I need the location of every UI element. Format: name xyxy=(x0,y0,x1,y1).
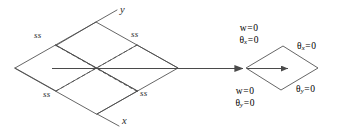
bc-value: 0 xyxy=(253,23,258,33)
bc-symbol: w xyxy=(236,86,243,96)
bc-top-left-block: w=0 θx=0 xyxy=(218,23,280,47)
bc-value: 0 xyxy=(250,98,255,108)
bc-value: 0 xyxy=(311,41,316,51)
plate-grid-lower-left xyxy=(15,68,56,91)
bc-value: 0 xyxy=(310,84,315,94)
bc-bottom-right-line-1: θy=0 xyxy=(296,84,315,96)
axis-y-label: y xyxy=(120,5,125,16)
bc-symbol: w xyxy=(240,23,247,33)
plate-grid-upper-right xyxy=(137,45,178,68)
axis-y-line xyxy=(96,10,117,22)
plate-grid-lower-right xyxy=(97,91,138,114)
plate-edge-label-ss-top-left: ss xyxy=(34,31,41,40)
axis-x-line xyxy=(97,114,119,126)
bc-value: 0 xyxy=(249,86,254,96)
bc-bottom-left-block: w=0 θy=0 xyxy=(214,86,276,110)
bc-value: 0 xyxy=(254,35,259,45)
plate-edge-label-ss-bottom-left: ss xyxy=(43,90,50,99)
plate-edge-label-ss-bottom-right: ss xyxy=(140,89,147,98)
bc-bottom-left-line-1: w=0 xyxy=(214,86,276,98)
bc-top-right-line-1: θx=0 xyxy=(297,41,316,53)
plate-edge-label-ss-top-right: ss xyxy=(131,30,138,39)
bc-bottom-left-line-2: θy=0 xyxy=(214,98,276,110)
bc-top-right-block: θx=0 xyxy=(297,41,316,53)
plate-grid-upper-left xyxy=(56,22,96,46)
figure-vector-canvas xyxy=(0,0,344,136)
bc-bottom-right-block: θy=0 xyxy=(296,84,315,96)
axis-x-label: x xyxy=(122,116,127,127)
plate-boundary-condition-figure: ss ss ss ss y x w=0 θx=0 w=0 θy=0 θx=0 θ… xyxy=(0,0,344,136)
bc-top-left-line-2: θx=0 xyxy=(218,35,280,47)
bc-top-left-line-1: w=0 xyxy=(218,23,280,35)
